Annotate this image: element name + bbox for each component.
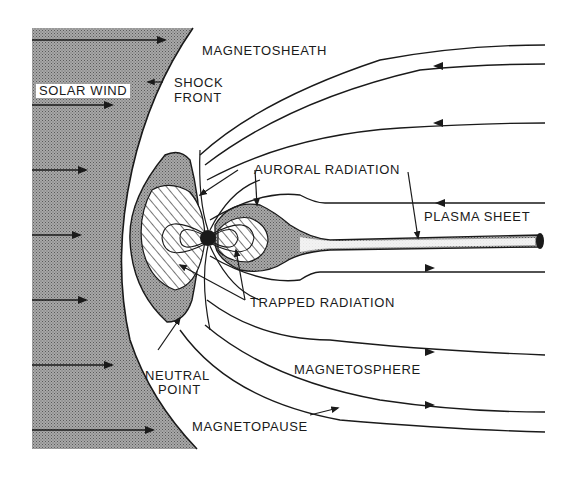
label-shock-front-line2: FRONT	[174, 91, 222, 105]
label-neutral-point-line2: POINT	[158, 383, 201, 397]
magnetosheath-field-lines	[200, 45, 545, 220]
label-neutral-point-line1: NEUTRAL	[145, 369, 210, 383]
nightside-trapped-hatch	[218, 218, 268, 263]
magnetosphere-diagram	[0, 0, 576, 486]
field-arrows-left	[433, 62, 445, 207]
magnetosphere-field-lines	[180, 256, 545, 432]
label-magnetopause: MAGNETOPAUSE	[192, 420, 308, 434]
field-arrows-right	[425, 264, 435, 409]
label-auroral-radiation: AURORAL RADIATION	[254, 163, 400, 177]
earth	[200, 230, 216, 246]
plasma-sheet-end	[536, 233, 544, 249]
label-solar-wind: SOLAR WIND	[36, 84, 130, 98]
label-shock-front-line1: SHOCK	[174, 76, 223, 90]
label-plasma-sheet: PLASMA SHEET	[424, 210, 530, 224]
label-magnetosphere: MAGNETOSPHERE	[294, 363, 421, 377]
label-trapped-radiation: TRAPPED RADIATION	[250, 296, 395, 310]
label-magnetosheath: MAGNETOSHEATH	[202, 44, 327, 58]
